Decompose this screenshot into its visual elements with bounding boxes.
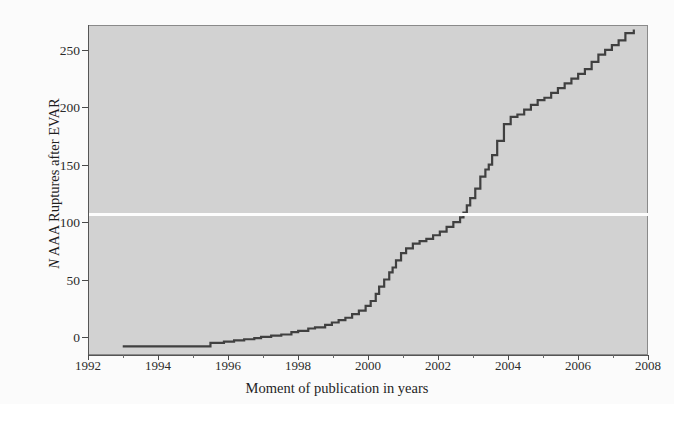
xtick-label-1996: 1996 xyxy=(198,359,258,372)
y-axis-title-text: AAA Ruptures after EVAR xyxy=(46,98,62,259)
ytick-mark-250 xyxy=(82,50,88,51)
y-axis-title-symbol: N xyxy=(46,259,62,269)
xtick-minor-1993 xyxy=(123,355,124,358)
ytick-mark-150 xyxy=(82,165,88,166)
xtick-minor-2005 xyxy=(543,355,544,358)
xtick-label-2002: 2002 xyxy=(408,359,468,372)
xtick-minor-1999 xyxy=(333,355,334,358)
xtick-label-2000: 2000 xyxy=(338,359,398,372)
xtick-label-2004: 2004 xyxy=(478,359,538,372)
cumulative-ruptures-step-line xyxy=(123,30,634,347)
figure-container: 250 200 150 100 50 0 1992 1994 1996 1998… xyxy=(0,0,674,426)
plot-area xyxy=(88,25,648,355)
step-line-chart xyxy=(89,26,649,356)
xtick-label-2008: 2008 xyxy=(618,359,674,372)
y-axis-title: N AAA Ruptures after EVAR xyxy=(46,34,63,334)
ytick-mark-50 xyxy=(82,280,88,281)
xtick-label-2006: 2006 xyxy=(548,359,608,372)
x-axis-title: Moment of publication in years xyxy=(0,380,674,397)
y-axis-line xyxy=(88,25,89,356)
xtick-label-1992: 1992 xyxy=(58,359,118,372)
xtick-label-1994: 1994 xyxy=(128,359,188,372)
xtick-minor-1995 xyxy=(193,355,194,358)
ytick-mark-100 xyxy=(82,222,88,223)
scan-line-artifact xyxy=(88,213,648,216)
xtick-minor-2007 xyxy=(613,355,614,358)
xtick-minor-2003 xyxy=(473,355,474,358)
xtick-label-1998: 1998 xyxy=(268,359,328,372)
xtick-minor-1997 xyxy=(263,355,264,358)
ytick-mark-0 xyxy=(82,337,88,338)
ytick-mark-200 xyxy=(82,107,88,108)
xtick-minor-2001 xyxy=(403,355,404,358)
